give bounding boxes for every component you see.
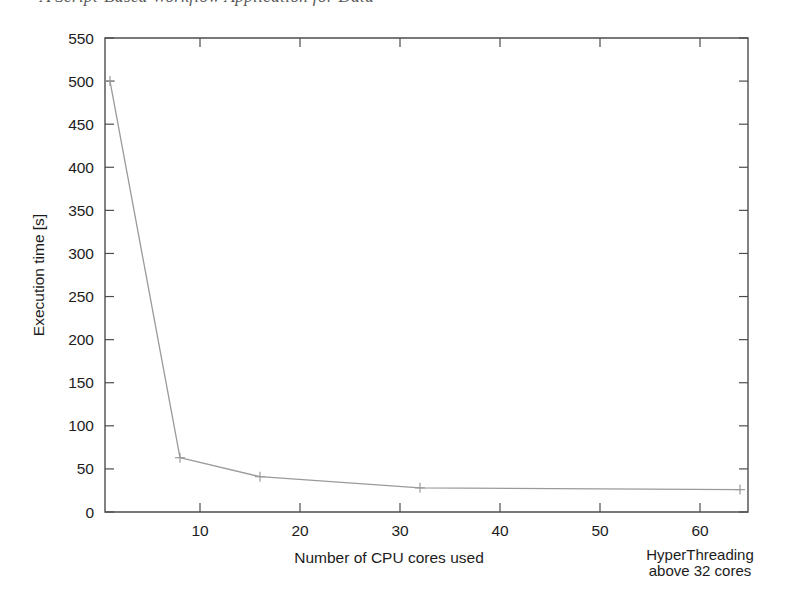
x-tick-label: 60 — [691, 522, 709, 539]
series-markers — [105, 76, 745, 495]
x-axis-ticks: 102030405060 — [191, 38, 709, 539]
y-tick-label: 0 — [85, 504, 94, 521]
y-tick-label: 50 — [77, 460, 95, 477]
data-point-marker — [255, 472, 265, 482]
y-tick-label: 450 — [68, 116, 94, 133]
x-tick-label: 10 — [191, 522, 209, 539]
data-point-marker — [175, 453, 185, 463]
y-tick-label: 300 — [68, 245, 94, 262]
data-point-marker — [105, 76, 115, 86]
x-tick-label: 40 — [491, 522, 509, 539]
x-tick-label: 20 — [291, 522, 309, 539]
y-axis-ticks: 050100150200250300350400450500550 — [68, 30, 748, 521]
data-point-marker — [735, 485, 745, 495]
y-tick-label: 250 — [68, 288, 94, 305]
hyperthreading-annotation-line1: HyperThreading — [646, 546, 754, 563]
x-tick-label: 50 — [591, 522, 609, 539]
y-tick-label: 150 — [68, 374, 94, 391]
chart-canvas: 050100150200250300350400450500550 102030… — [0, 0, 788, 599]
x-axis-title: Number of CPU cores used — [294, 549, 484, 566]
y-tick-label: 200 — [68, 331, 94, 348]
series-line-execution-time — [110, 81, 740, 490]
x-tick-label: 30 — [391, 522, 409, 539]
hyperthreading-annotation-line2: above 32 cores — [649, 562, 752, 579]
data-point-marker — [415, 483, 425, 493]
y-tick-label: 100 — [68, 417, 94, 434]
y-tick-label: 500 — [68, 73, 94, 90]
execution-time-chart: 050100150200250300350400450500550 102030… — [0, 0, 788, 599]
y-tick-label: 350 — [68, 202, 94, 219]
y-axis-title: Execution time [s] — [30, 214, 47, 336]
plot-frame — [105, 38, 748, 512]
y-tick-label: 400 — [68, 159, 94, 176]
y-tick-label: 550 — [68, 30, 94, 47]
